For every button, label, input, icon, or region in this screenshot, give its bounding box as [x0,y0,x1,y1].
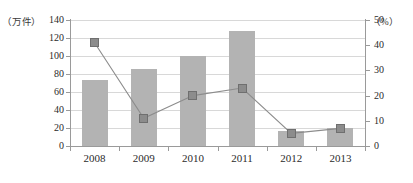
right-axis-tick-label: 40 [374,39,410,50]
x-axis-tickmark [365,147,366,151]
right-axis-tickmark [366,146,370,147]
line-marker [90,38,99,47]
line-marker [238,84,247,93]
line-series [70,20,365,146]
right-axis-tickmark [366,45,370,46]
left-axis-tick-label: 0 [28,140,64,151]
right-axis-tickmark [366,121,370,122]
left-axis-tick-label: 80 [28,68,64,79]
x-axis-tickmark [218,147,219,151]
right-axis-tickmark [366,20,370,21]
left-axis-tick-label: 40 [28,104,64,115]
plot-area [70,20,365,146]
right-axis-tick-label: 50 [374,14,410,25]
right-axis-tick-label: 30 [374,64,410,75]
line-marker [287,129,296,138]
line-marker [188,91,197,100]
left-axis-tick-label: 20 [28,122,64,133]
x-axis-tickmark [70,147,71,151]
left-axis-tick-label: 140 [28,14,64,25]
x-axis-category-label: 2013 [310,152,370,164]
left-axis-tick-label: 120 [28,32,64,43]
right-axis-tick-label: 20 [374,90,410,101]
left-axis-tick-label: 100 [28,50,64,61]
line-marker [139,114,148,123]
right-axis-tickmark [366,96,370,97]
left-axis-tick-label: 60 [28,86,64,97]
right-axis-line [365,19,366,148]
right-axis-tick-label: 10 [374,115,410,126]
line-path [95,43,341,134]
x-axis-tickmark [267,147,268,151]
x-axis-tickmark [316,147,317,151]
x-axis-tickmark [168,147,169,151]
line-marker [336,124,345,133]
right-axis-tickmark [366,70,370,71]
x-axis-tickmark [119,147,120,151]
right-axis-tick-label: 0 [374,140,410,151]
combo-bar-line-chart: （万件） （%） 020406080100120140 01020304050 … [0,0,413,183]
